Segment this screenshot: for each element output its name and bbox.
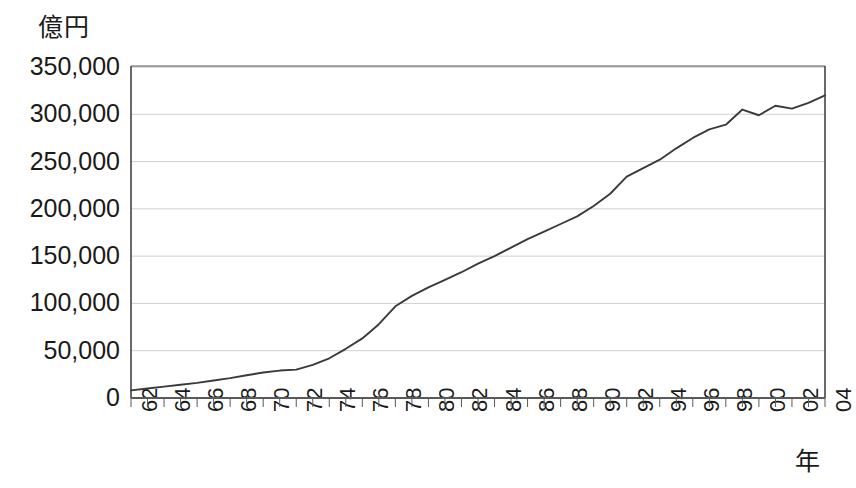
gridlines	[131, 67, 825, 351]
x-axis-ticks	[131, 398, 825, 407]
axis-lines	[131, 66, 825, 398]
data-series-line	[131, 95, 825, 390]
x-axis-title: 年	[795, 447, 820, 475]
